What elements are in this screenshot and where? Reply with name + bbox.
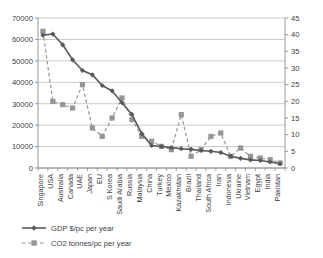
data-point-co2 — [110, 115, 115, 120]
x-axis-tick-label: Thailand — [194, 174, 203, 202]
x-axis-tick-label: China — [145, 174, 154, 193]
x-axis-tick-label: S Korea — [105, 174, 114, 200]
x-axis-tick-label: Brazil — [184, 174, 193, 192]
x-axis-tick-label: Ukraine — [234, 174, 243, 199]
x-axis-tick-label: Vietnam — [243, 174, 252, 200]
data-point-co2 — [60, 102, 65, 107]
legend-marker-gdp — [31, 225, 37, 231]
data-point-co2 — [189, 154, 194, 159]
data-point-co2 — [238, 145, 243, 150]
data-point-co2 — [90, 125, 95, 130]
x-axis-tick-label: Pakistan — [273, 174, 282, 202]
data-point-co2 — [100, 134, 105, 139]
y-axis-right-tick-label: 30 — [291, 64, 299, 73]
legend-label-gdp: GDP $/pc per year — [51, 224, 114, 233]
y-axis-right-tick-label: 45 — [291, 14, 299, 23]
data-point-co2 — [208, 134, 213, 139]
x-axis-tick-label: Canada — [66, 174, 75, 199]
x-axis-tick-label: Iran — [214, 174, 223, 186]
y-axis-right-tick-label: 25 — [291, 80, 299, 89]
chart-svg: 0100002000030000400005000060000700000510… — [0, 0, 323, 258]
y-axis-right-tick-label: 0 — [291, 164, 295, 173]
data-point-co2 — [179, 112, 184, 117]
y-axis-right-tick-label: 35 — [291, 47, 299, 56]
legend-label-co2: CO2 tonnes/pc per year — [51, 239, 132, 248]
x-axis-tick-label: Australia — [56, 174, 65, 202]
x-axis-tick-label: USA — [46, 174, 55, 189]
x-axis-tick-label: Egypt — [253, 174, 262, 192]
data-point-co2 — [80, 82, 85, 87]
x-axis-tick-label: South Africa — [204, 174, 213, 213]
x-axis-tick-label: Singapore — [36, 174, 45, 207]
data-point-co2 — [70, 105, 75, 110]
chart-container: 0100002000030000400005000060000700000510… — [0, 0, 323, 258]
y-axis-left-tick-label: 0 — [29, 164, 33, 173]
y-axis-left-tick-label: 60000 — [12, 35, 33, 44]
y-axis-left-tick-label: 70000 — [12, 14, 33, 23]
x-axis-tick-label: Saudi Arabia — [115, 174, 124, 215]
data-point-co2 — [218, 130, 223, 135]
x-axis-tick-label: Japan — [85, 174, 94, 194]
x-axis-tick-label: Malaysia — [135, 174, 144, 202]
x-axis-tick-label: Kazakhstan — [174, 174, 183, 212]
y-axis-left-tick-label: 10000 — [12, 142, 33, 151]
y-axis-right-tick-label: 15 — [291, 114, 299, 123]
x-axis-tick-label: India — [263, 174, 272, 190]
x-axis-tick-label: Turkey — [155, 174, 164, 196]
y-axis-right-tick-label: 5 — [291, 147, 295, 156]
x-axis-tick-label: EU — [95, 174, 104, 184]
x-axis-tick-label: Mexico — [164, 174, 173, 197]
y-axis-left-tick-label: 40000 — [12, 78, 33, 87]
data-point-co2 — [50, 99, 55, 104]
y-axis-left-tick-label: 20000 — [12, 121, 33, 130]
y-axis-left-tick-label: 50000 — [12, 57, 33, 66]
y-axis-right-tick-label: 40 — [291, 30, 299, 39]
legend-marker-co2 — [31, 240, 36, 245]
x-axis-tick-label: Russia — [125, 174, 134, 196]
y-axis-right-tick-label: 20 — [291, 97, 299, 106]
x-axis-tick-label: UAE — [75, 174, 84, 189]
y-axis-left-tick-label: 30000 — [12, 100, 33, 109]
y-axis-right-tick-label: 10 — [291, 130, 299, 139]
x-axis-tick-label: Indonesia — [224, 174, 233, 205]
